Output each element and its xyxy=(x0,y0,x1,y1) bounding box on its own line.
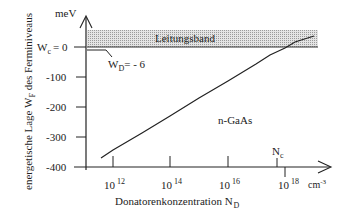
material-label: n-GaAs xyxy=(218,114,252,126)
y-tick-300: -300 xyxy=(46,131,67,143)
x-axis-label: Donatorenkonzentration ND xyxy=(115,195,240,210)
y-unit: meV xyxy=(55,7,76,19)
fermi-level-curve xyxy=(101,36,314,158)
y-tick-100: -100 xyxy=(46,71,67,83)
x-tick-1e12: 1012 xyxy=(104,177,125,191)
band-label: Leitungsband xyxy=(155,32,215,44)
chart: meV Wc= 0 -100 -200 -300 -400 energetisc… xyxy=(0,0,354,222)
y-tick-0: Wc= 0 xyxy=(37,41,68,56)
donor-level-label: WD= - 6 xyxy=(108,58,146,73)
nc-label: Nc xyxy=(272,145,284,160)
x-tick-1e14: 1014 xyxy=(161,177,182,191)
x-tick-1e18: 1018 xyxy=(278,177,299,191)
y-axis-label: energetische Lage WF des Ferminiveaus xyxy=(22,13,37,190)
y-tick-400: -400 xyxy=(46,161,67,173)
y-tick-200: -200 xyxy=(46,101,67,113)
x-unit: cm-3 xyxy=(308,178,327,190)
x-tick-1e16: 1016 xyxy=(219,177,240,191)
